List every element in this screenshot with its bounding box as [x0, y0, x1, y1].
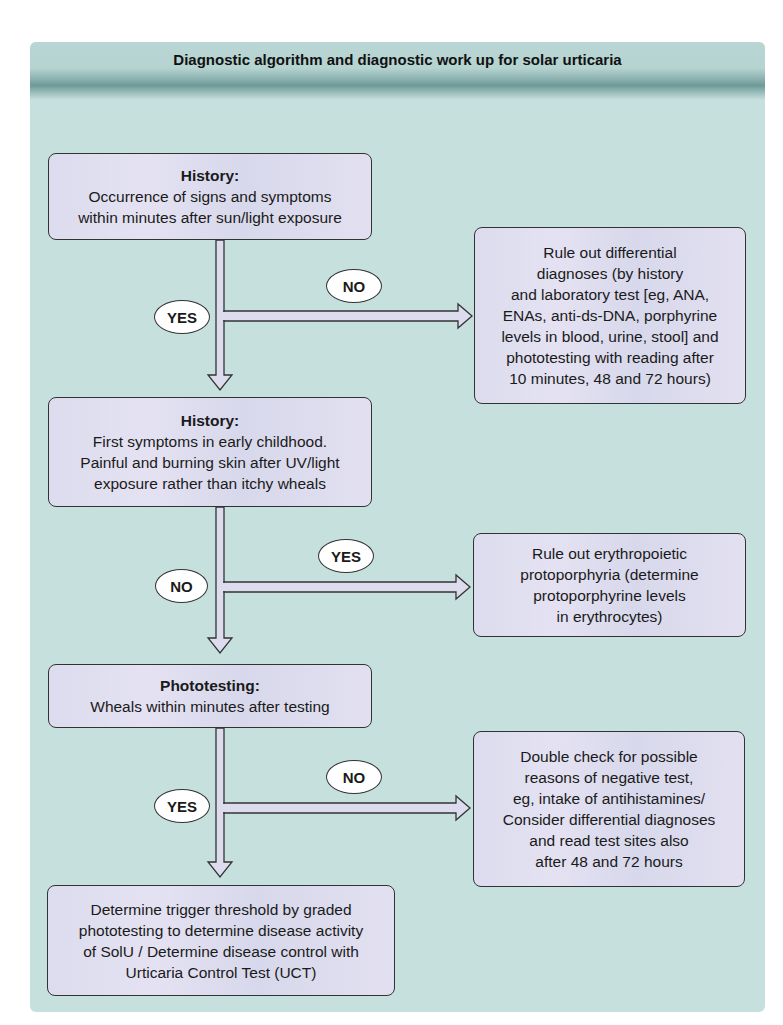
- step-text: Determine trigger threshold by graded: [90, 899, 351, 920]
- branch-label-side-2: YES: [318, 539, 374, 573]
- step-box-history-onset: History: Occurrence of signs and symptom…: [48, 153, 372, 240]
- step-text: phototesting to determine disease activi…: [79, 920, 363, 941]
- side-text: levels in blood, urine, stool] and: [501, 326, 718, 347]
- step-text: Urticaria Control Test (UCT): [126, 962, 317, 983]
- step-text: exposure rather than itchy wheals: [94, 473, 326, 494]
- side-text: 10 minutes, 48 and 72 hours): [509, 368, 711, 389]
- side-text: diagnoses (by history: [537, 263, 683, 284]
- side-box-double-check: Double check for possible reasons of neg…: [473, 731, 745, 887]
- side-text: protoporphyrine levels: [533, 585, 686, 606]
- step-box-phototesting: Phototesting: Wheals within minutes afte…: [48, 664, 372, 728]
- side-text: reasons of negative test,: [525, 767, 694, 788]
- branch-label-side-3: NO: [326, 760, 382, 794]
- branch-label-down-1: YES: [154, 300, 210, 334]
- side-text: Consider differential diagnoses: [503, 809, 716, 830]
- arrow-right-1: [224, 304, 472, 328]
- side-text: ENAs, anti-ds-DNA, porphyrine: [503, 305, 718, 326]
- step-text: Wheals within minutes after testing: [90, 696, 330, 717]
- branch-label-down-3: YES: [154, 789, 210, 823]
- step-box-history-childhood: History: First symptoms in early childho…: [48, 397, 372, 507]
- arrow-right-3: [224, 796, 470, 820]
- side-text: and read test sites also: [529, 830, 688, 851]
- side-text: Double check for possible: [520, 746, 698, 767]
- side-text: eg, intake of antihistamines/: [513, 788, 705, 809]
- step-text: Painful and burning skin after UV/light: [80, 452, 339, 473]
- side-box-protoporphyria: Rule out erythropoietic protoporphyria (…: [473, 533, 746, 637]
- branch-label-side-1: NO: [326, 269, 382, 303]
- side-text: phototesting with reading after: [506, 347, 714, 368]
- side-text: and laboratory test [eg, ANA,: [511, 284, 709, 305]
- side-text: Rule out erythropoietic: [532, 543, 687, 564]
- side-text: protoporphyria (determine: [520, 564, 698, 585]
- side-text: after 48 and 72 hours: [535, 851, 682, 872]
- step-text: within minutes after sun/light exposure: [78, 207, 342, 228]
- step-text: of SolU / Determine disease control with: [83, 941, 359, 962]
- step-heading: Phototesting:: [160, 675, 260, 696]
- step-box-trigger-threshold: Determine trigger threshold by graded ph…: [47, 885, 395, 996]
- step-text: First symptoms in early childhood.: [93, 431, 327, 452]
- arrow-right-2: [224, 575, 470, 599]
- step-text: Occurrence of signs and symptoms: [89, 186, 332, 207]
- step-heading: History:: [181, 410, 240, 431]
- side-box-differential-diagnoses: Rule out differential diagnoses (by hist…: [474, 227, 746, 404]
- side-text: in erythrocytes): [557, 606, 663, 627]
- arrow-down-2: [208, 507, 232, 653]
- branch-label-down-2: NO: [155, 569, 208, 603]
- side-text: Rule out differential: [543, 242, 676, 263]
- step-heading: History:: [181, 165, 240, 186]
